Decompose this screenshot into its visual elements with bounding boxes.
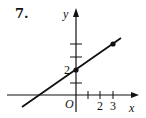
y-axis-arrow-icon (73, 8, 79, 17)
point-3-4 (110, 41, 115, 46)
point-0-2 (73, 67, 78, 72)
x-axis-label: x (128, 101, 135, 115)
x-tick-label-3: 3 (110, 99, 116, 113)
origin-label: O (65, 97, 74, 111)
coordinate-plot: y 2 O 2 3 x (0, 0, 146, 118)
x-axis-arrow-icon (131, 92, 139, 98)
x-tick-label-2: 2 (97, 99, 103, 113)
y-axis-label: y (62, 7, 69, 21)
y-tick-label-2: 2 (64, 63, 70, 77)
